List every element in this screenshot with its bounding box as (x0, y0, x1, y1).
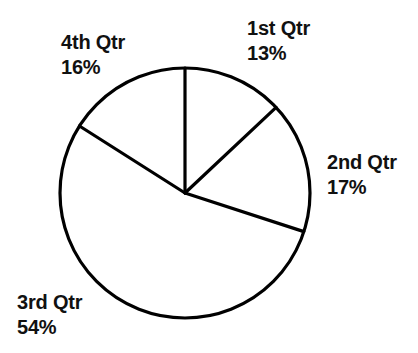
pie-label-2nd-qtr-value: 17% (327, 175, 397, 200)
pie-label-4th-qtr-value: 16% (61, 55, 125, 80)
pie-label-2nd-qtr: 2nd Qtr 17% (327, 150, 397, 200)
pie-label-1st-qtr-name: 1st Qtr (247, 16, 310, 41)
pie-label-4th-qtr: 4th Qtr 16% (61, 30, 125, 80)
pie-label-3rd-qtr: 3rd Qtr 54% (17, 290, 82, 340)
pie-label-1st-qtr: 1st Qtr 13% (247, 16, 310, 66)
pie-label-4th-qtr-name: 4th Qtr (61, 30, 125, 55)
pie-label-1st-qtr-value: 13% (247, 41, 310, 66)
pie-label-3rd-qtr-name: 3rd Qtr (17, 290, 82, 315)
pie-label-3rd-qtr-value: 54% (17, 315, 82, 340)
pie-label-2nd-qtr-name: 2nd Qtr (327, 150, 397, 175)
pie-chart-figure: 1st Qtr 13% 2nd Qtr 17% 3rd Qtr 54% 4th … (0, 0, 418, 353)
